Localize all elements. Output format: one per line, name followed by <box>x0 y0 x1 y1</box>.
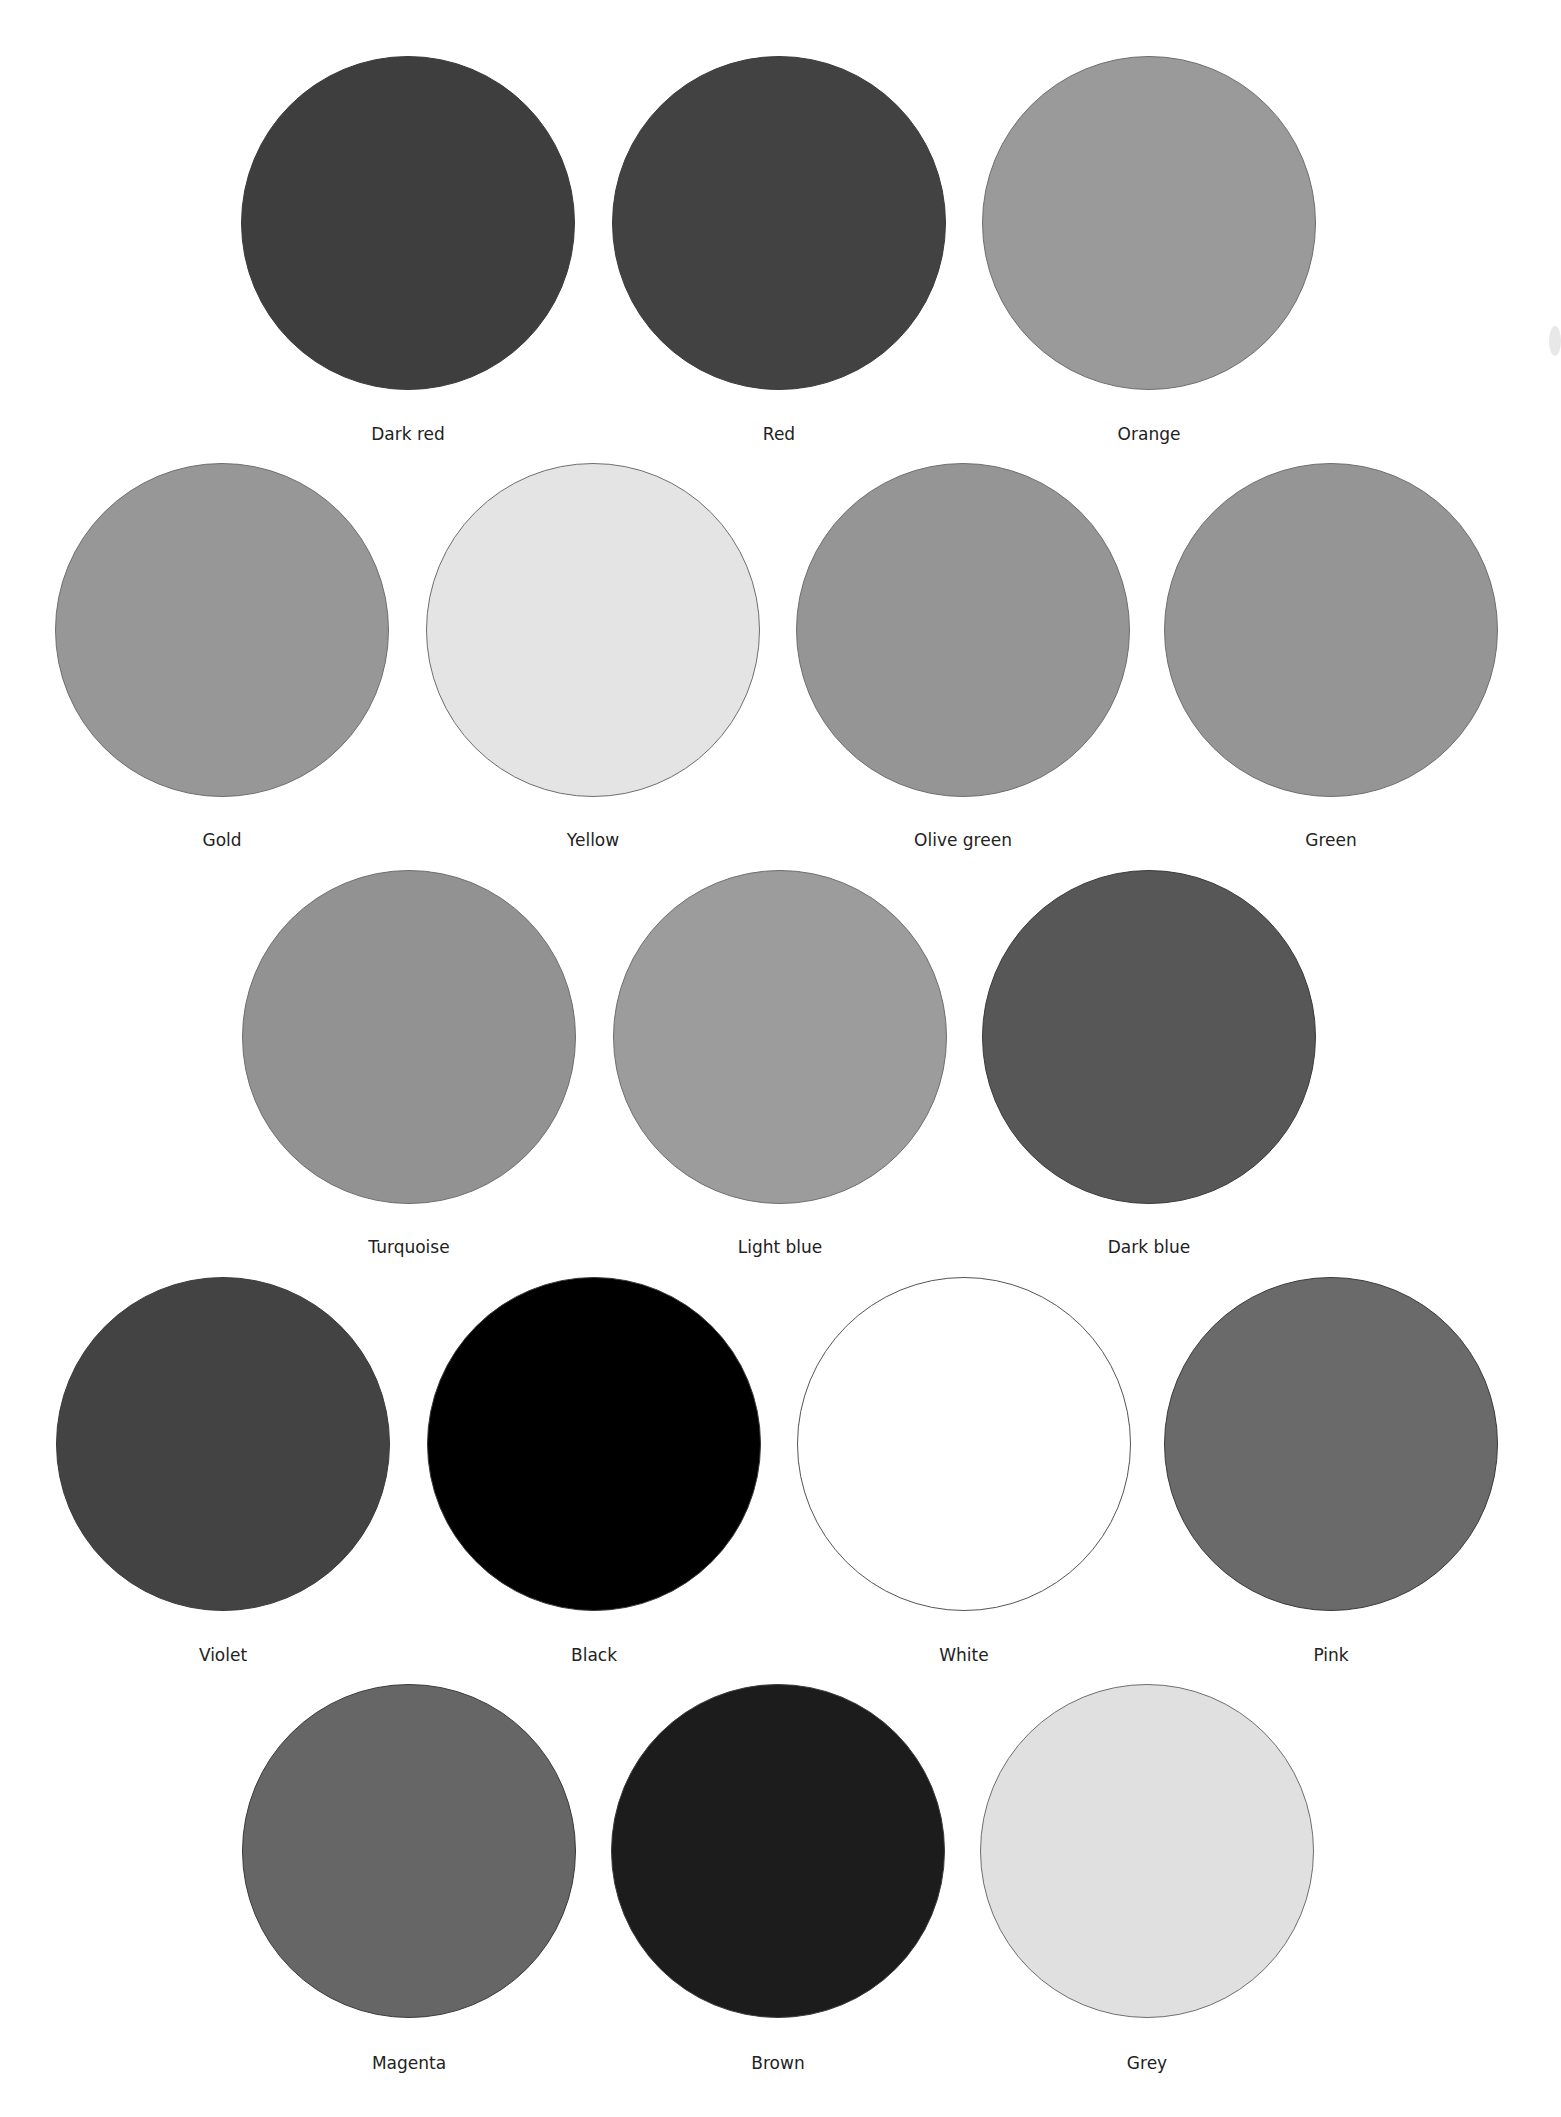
swatch-label: Gold <box>102 830 342 850</box>
swatch-label: Black <box>474 1645 714 1665</box>
swatch-light-blue <box>613 870 947 1204</box>
swatch-pink <box>1164 1277 1498 1611</box>
swatch-label: White <box>844 1645 1084 1665</box>
swatch-label: Olive green <box>843 830 1083 850</box>
swatch-label: Yellow <box>473 830 713 850</box>
swatch-dark-red <box>241 56 575 390</box>
swatch-gold <box>55 463 389 797</box>
swatch-orange <box>982 56 1316 390</box>
swatch-label: Brown <box>658 2053 898 2073</box>
swatch-brown <box>611 1684 945 2018</box>
swatch-label: Violet <box>103 1645 343 1665</box>
swatch-violet <box>56 1277 390 1611</box>
swatch-black <box>427 1277 761 1611</box>
swatch-red <box>612 56 946 390</box>
swatch-label: Orange <box>1029 424 1269 444</box>
swatch-yellow <box>426 463 760 797</box>
swatch-olive-green <box>796 463 1130 797</box>
swatch-label: Red <box>659 424 899 444</box>
swatch-label: Magenta <box>289 2053 529 2073</box>
swatch-green <box>1164 463 1498 797</box>
page-edge-artifact <box>1549 326 1561 356</box>
swatch-white <box>797 1277 1131 1611</box>
swatch-label: Pink <box>1211 1645 1451 1665</box>
swatch-label: Dark blue <box>1029 1237 1269 1257</box>
swatch-turquoise <box>242 870 576 1204</box>
swatch-magenta <box>242 1684 576 2018</box>
swatch-label: Light blue <box>660 1237 900 1257</box>
swatch-dark-blue <box>982 870 1316 1204</box>
swatch-label: Dark red <box>288 424 528 444</box>
swatch-label: Grey <box>1027 2053 1267 2073</box>
swatch-grey <box>980 1684 1314 2018</box>
swatch-label: Turquoise <box>289 1237 529 1257</box>
swatch-label: Green <box>1211 830 1451 850</box>
